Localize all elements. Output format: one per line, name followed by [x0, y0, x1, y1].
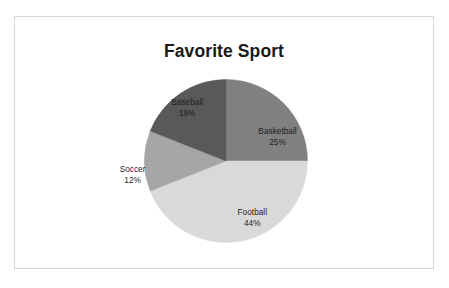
slice-label-soccer-name: Soccer	[120, 165, 146, 176]
screenshot-root: Favorite Sport Basketball 25% Football 4…	[0, 0, 449, 288]
slice-label-soccer: Soccer 12%	[120, 165, 146, 186]
pie-chart-svg	[15, 17, 435, 270]
slice-label-baseball-name: Baseball	[171, 97, 203, 108]
slice-label-football: Football 44%	[238, 208, 268, 229]
chart-frame: Favorite Sport Basketball 25% Football 4…	[14, 16, 434, 269]
slice-label-baseball: Baseball 19%	[171, 97, 203, 118]
slice-label-basketball-name: Basketball	[258, 127, 296, 138]
slice-label-basketball-percent: 25%	[258, 137, 296, 148]
pie-slice-basketball	[226, 80, 308, 162]
slice-label-football-name: Football	[238, 208, 268, 219]
slice-label-baseball-percent: 19%	[171, 108, 203, 119]
slice-label-basketball: Basketball 25%	[258, 127, 296, 148]
slice-label-soccer-percent: 12%	[120, 175, 146, 186]
pie-slices-group	[144, 80, 307, 243]
pie-chart-plot-area: Basketball 25% Football 44% Soccer 12% B…	[15, 17, 435, 270]
slice-label-football-percent: 44%	[238, 218, 268, 229]
